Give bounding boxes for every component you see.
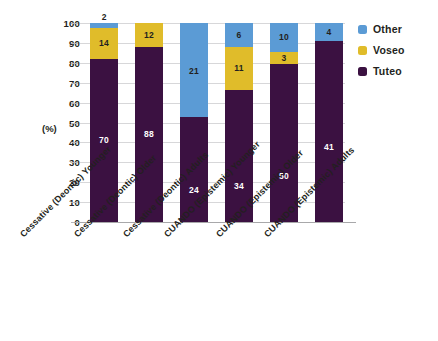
bar-segment-voseo-4[interactable]: 3 [270, 52, 298, 64]
legend-swatch-other-icon [358, 25, 367, 34]
bar-value-other-3: 6 [237, 31, 242, 40]
bar-value-voseo-4: 3 [282, 54, 287, 63]
bar-segment-tuteo-5[interactable]: 41 [315, 41, 343, 222]
y-tick-dash-50 [71, 123, 78, 124]
gridline-90 [80, 43, 345, 44]
y-tick-dash-70 [71, 83, 78, 84]
gridline-30 [80, 162, 345, 163]
legend-label-other: Other [373, 23, 402, 35]
bar-value-other-2: 21 [189, 67, 199, 76]
bar-value-other-0: 2 [90, 13, 118, 22]
gridline-100 [80, 23, 345, 24]
bar-segment-other-3[interactable]: 6 [225, 23, 253, 47]
y-tick-dash-100 [71, 23, 78, 24]
bar-value-voseo-3: 11 [234, 64, 243, 73]
y-tick-dash-60 [71, 103, 78, 104]
legend-swatch-voseo-icon [358, 46, 367, 55]
bar-segment-other-5[interactable]: 4 [315, 23, 343, 41]
bar-segment-other-4[interactable]: 10 [270, 23, 298, 52]
legend-item-voseo[interactable]: Voseo [358, 41, 434, 59]
bar-value-voseo-0: 14 [99, 39, 109, 48]
legend-item-tuteo[interactable]: Tuteo [358, 62, 434, 80]
y-tick-dash-30 [71, 162, 78, 163]
bar-group-1[interactable]: 88 12 [135, 23, 163, 222]
bar-segment-other-0[interactable] [90, 23, 118, 28]
y-tick-dash-10 [71, 202, 78, 203]
bar-segment-other-2[interactable]: 21 [180, 23, 208, 117]
gridline-60 [80, 103, 345, 104]
bar-group-3[interactable]: 34 11 6 [225, 23, 253, 222]
y-tick-dash-40 [71, 142, 78, 143]
legend-label-voseo: Voseo [373, 44, 405, 56]
gridline-80 [80, 63, 345, 64]
bar-value-other-5: 4 [327, 28, 332, 37]
bar-value-tuteo-3: 34 [234, 182, 244, 191]
gridline-70 [80, 83, 345, 84]
bar-segment-voseo-0[interactable]: 14 [90, 28, 118, 59]
bar-group-4[interactable]: 50 3 10 [270, 23, 298, 222]
bar-value-tuteo-0: 70 [99, 136, 109, 145]
stacked-bar-chart: (%) 100 90 80 70 60 50 40 30 20 10 0 [0, 0, 438, 341]
bar-segment-voseo-3[interactable]: 11 [225, 47, 253, 90]
legend-swatch-tuteo-icon [358, 67, 367, 76]
y-tick-dash-90 [71, 43, 78, 44]
bar-value-tuteo-2: 24 [189, 186, 199, 195]
legend-item-other[interactable]: Other [358, 20, 434, 38]
legend-label-tuteo: Tuteo [373, 65, 402, 77]
gridline-40 [80, 142, 345, 143]
bar-value-other-4: 10 [279, 33, 289, 42]
chart-legend: Other Voseo Tuteo [358, 20, 434, 83]
gridline-50 [80, 123, 345, 124]
bar-segment-voseo-1[interactable]: 12 [135, 23, 163, 47]
bar-group-5[interactable]: 41 4 [315, 23, 343, 222]
y-tick-dash-80 [71, 63, 78, 64]
x-axis-baseline [74, 222, 356, 223]
bar-value-tuteo-1: 88 [144, 130, 154, 139]
bar-value-voseo-1: 12 [144, 31, 154, 40]
bar-value-tuteo-5: 41 [324, 143, 334, 152]
